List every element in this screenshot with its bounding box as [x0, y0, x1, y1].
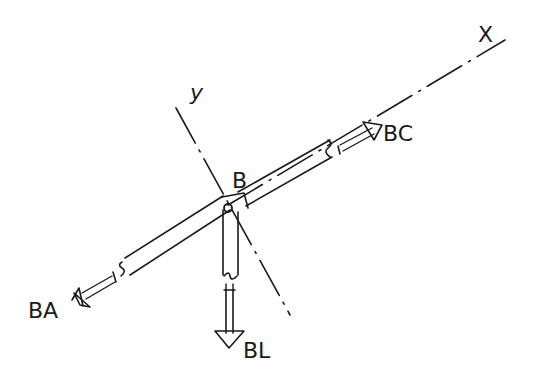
joint-label-b: B	[232, 168, 247, 193]
joint-b	[222, 193, 248, 212]
free-body-diagram: X y BC BA B	[0, 0, 541, 384]
force-label-ba: BA	[28, 298, 58, 323]
member-ba	[82, 196, 230, 299]
force-label-bc: BC	[383, 121, 413, 146]
member-bl	[223, 210, 238, 333]
force-label-bl: BL	[243, 338, 271, 363]
x-axis-label: X	[478, 22, 493, 47]
arrow-bl-icon	[215, 331, 244, 348]
y-axis-label: y	[189, 80, 204, 105]
member-bc	[238, 128, 374, 206]
